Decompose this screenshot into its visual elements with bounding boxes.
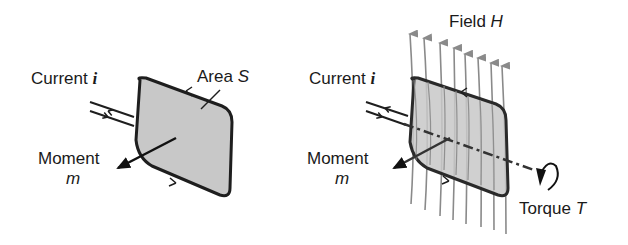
area-symbol: S xyxy=(238,67,249,86)
field-label: Field H xyxy=(449,13,503,30)
lead-wires xyxy=(90,102,134,126)
current-label-left: Current i xyxy=(31,70,97,87)
current-loop xyxy=(136,78,232,196)
current-label-right: Current i xyxy=(309,70,375,87)
current-symbol-right: i xyxy=(370,69,375,88)
field-symbol: H xyxy=(491,12,503,31)
torque-label: Torque T xyxy=(519,200,586,217)
current-symbol: i xyxy=(92,69,97,88)
moment-label-left: Moment xyxy=(38,150,99,167)
torque-symbol: T xyxy=(576,199,586,218)
left-panel xyxy=(90,78,232,196)
moment-symbol-left: m xyxy=(66,170,80,187)
area-label: Area S xyxy=(197,68,249,85)
lead-wires-right xyxy=(366,102,408,125)
moment-symbol-right: m xyxy=(335,170,349,187)
moment-label-right: Moment xyxy=(307,150,368,167)
